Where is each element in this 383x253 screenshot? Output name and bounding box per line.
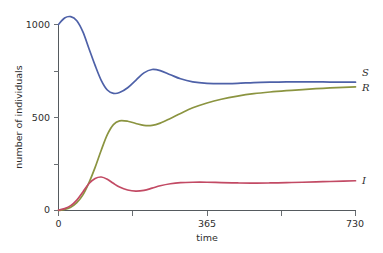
x-tick-label-730: 730 (346, 218, 364, 229)
x-tick-label-365: 365 (198, 218, 216, 229)
y-axis-ticks (54, 25, 59, 211)
series-label-R: R (361, 82, 370, 93)
series-paths (59, 17, 356, 211)
series-label-S: S (362, 67, 369, 78)
y-tick-label-0: 0 (44, 204, 50, 215)
y-tick-label-1000: 1000 (26, 19, 50, 30)
sir-model-chart: 1000 500 0 0 365 730 time number of indi… (0, 0, 383, 253)
series-line-R (59, 87, 356, 211)
x-axis-title: time (196, 232, 218, 243)
y-axis-title: number of individuals (13, 65, 24, 168)
chart-plot-area: 1000 500 0 0 365 730 time number of indi… (0, 0, 383, 253)
x-axis-ticks (59, 211, 356, 216)
x-tick-label-0: 0 (55, 218, 61, 229)
y-tick-label-500: 500 (32, 112, 50, 123)
series-label-I: I (361, 175, 367, 186)
series-line-S (59, 17, 356, 94)
series-line-I (59, 177, 356, 210)
